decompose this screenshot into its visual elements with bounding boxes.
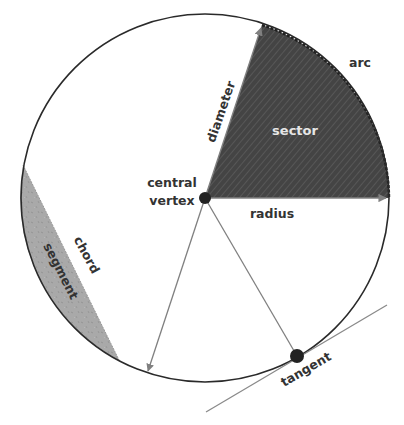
radius-arrow-lower — [148, 198, 205, 371]
vertex-label: vertex — [149, 193, 194, 208]
circle-diagram: arc sector diameter central vertex radiu… — [0, 0, 404, 425]
chord-label: chord — [71, 234, 103, 276]
radius-to-tangent-point — [205, 198, 297, 356]
sector-label: sector — [272, 123, 318, 138]
tangent-label: tangent — [278, 349, 334, 390]
arc-label: arc — [349, 55, 371, 70]
central-label: central — [147, 175, 197, 190]
central-vertex-dot — [199, 192, 211, 204]
sector-region — [205, 25, 389, 198]
radius-label: radius — [250, 206, 294, 221]
tangent-point-dot — [290, 349, 304, 363]
